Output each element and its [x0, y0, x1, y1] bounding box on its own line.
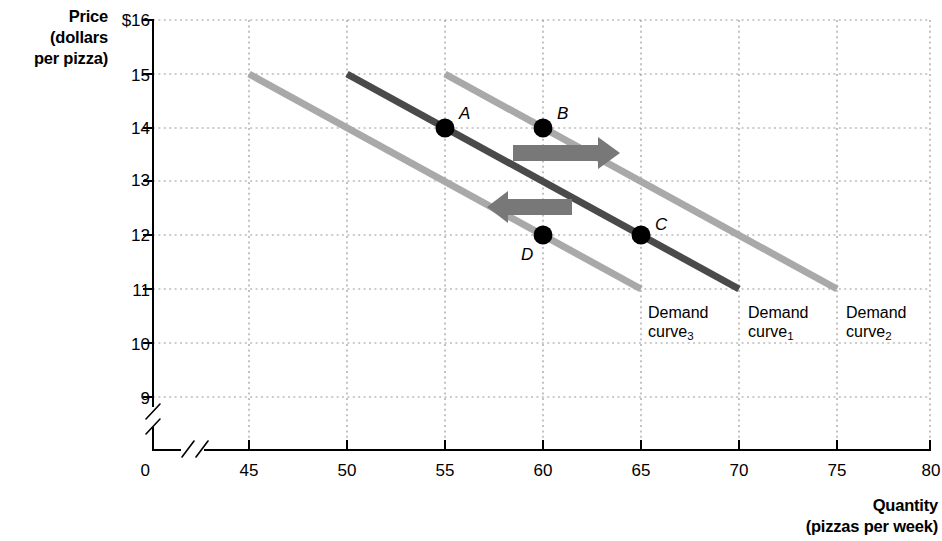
- demand-curve-2-line: [445, 74, 837, 289]
- point-label-d: D: [521, 246, 533, 263]
- demand-curve-3-line: [249, 74, 641, 289]
- y-axis-ticks: [143, 20, 153, 397]
- shift-left-arrow: [487, 191, 572, 223]
- plot-canvas: [0, 0, 942, 541]
- demand-curve-3-label-line1: Demand: [648, 303, 708, 322]
- demand-curve-1-label-sub: 1: [787, 330, 793, 342]
- demand-curve-2-label-line1: Demand: [846, 303, 906, 322]
- demand-curve-3-label: Demand curve3: [648, 303, 708, 343]
- point-label-b: B: [557, 105, 568, 122]
- demand-curve-1-label-line2: curve1: [748, 322, 808, 343]
- demand-curve-2-label-line2: curve2: [846, 322, 906, 343]
- demand-curve-3-label-line2: curve3: [648, 322, 708, 343]
- data-point-c: [632, 226, 651, 245]
- shift-left-arrow-shape: [487, 191, 572, 223]
- demand-curve-2-label: Demand curve2: [846, 303, 906, 343]
- x-axis-break-mark-1: [182, 441, 194, 457]
- demand-curve-2-label-sub: 2: [885, 330, 891, 342]
- x-axis-ticks: [249, 440, 930, 450]
- demand-curve-3-label-sub: 3: [687, 330, 693, 342]
- demand-curve-3-label-word: curve: [648, 323, 687, 340]
- point-label-a: A: [459, 105, 470, 122]
- demand-curve-1-label-line1: Demand: [748, 303, 808, 322]
- point-label-c: C: [655, 216, 667, 233]
- data-point-d: [534, 226, 553, 245]
- demand-curve-2-label-word: curve: [846, 323, 885, 340]
- vertical-gridlines: [249, 20, 930, 449]
- demand-curve-1-line: [347, 74, 739, 289]
- demand-curve-1-label-word: curve: [748, 323, 787, 340]
- data-point-b: [534, 119, 553, 138]
- demand-curve-1-label: Demand curve1: [748, 303, 808, 343]
- data-point-a: [436, 119, 455, 138]
- demand-curve-figure: Price (dollars per pizza) Quantity (pizz…: [0, 0, 942, 541]
